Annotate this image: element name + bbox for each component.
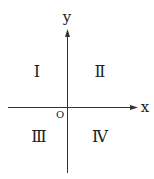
- quadrant-3-label: Ⅲ: [31, 129, 46, 145]
- y-axis-arrow-icon: [65, 29, 70, 37]
- x-axis-label: x: [141, 100, 149, 115]
- coordinate-plane-diagram: y x O Ⅰ Ⅱ Ⅲ Ⅳ: [0, 0, 154, 179]
- origin-label: O: [56, 110, 64, 120]
- quadrant-1-label: Ⅰ: [34, 64, 40, 80]
- axes-graphic: [0, 0, 154, 179]
- quadrant-2-label: Ⅱ: [95, 64, 106, 80]
- quadrant-4-label: Ⅳ: [92, 129, 108, 145]
- y-axis-label: y: [63, 10, 71, 25]
- x-axis-arrow-icon: [130, 105, 138, 110]
